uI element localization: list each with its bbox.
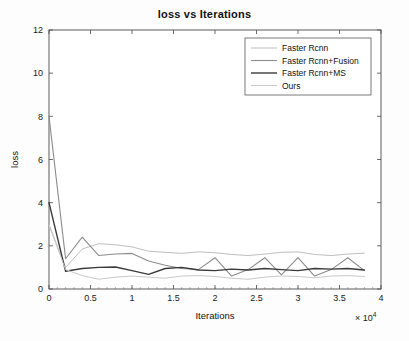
y-tick-label: 6 — [38, 155, 43, 165]
y-tick-label: 4 — [38, 198, 43, 208]
x-tick-label: 3 — [295, 293, 300, 303]
y-tick-label: 0 — [38, 284, 43, 294]
chart-legend[interactable]: Faster RcnnFaster Rcnn+FusionFaster Rcnn… — [245, 38, 371, 95]
x-tick-label: 3.5 — [333, 293, 346, 303]
x-tick-label: 1.5 — [167, 293, 180, 303]
figure-container: loss vs Iterations 00.511.522.533.540246… — [0, 0, 409, 341]
legend-label-2[interactable]: Faster Rcnn+MS — [282, 68, 346, 78]
x-axis-title: Iterations — [195, 310, 234, 321]
x-tick-label: 2 — [212, 293, 217, 303]
legend-label-1[interactable]: Faster Rcnn+Fusion — [282, 56, 359, 66]
y-axis-title: loss — [9, 151, 20, 168]
y-tick-label: 10 — [33, 68, 43, 78]
legend-label-3[interactable]: Ours — [282, 81, 300, 91]
x-tick-label: 0.5 — [84, 293, 97, 303]
y-tick-label: 12 — [33, 25, 43, 35]
loss-vs-iterations-chart: 00.511.522.533.54024681012Iterationsloss… — [0, 0, 409, 341]
x-tick-label: 4 — [378, 293, 383, 303]
x-tick-label: 2.5 — [250, 293, 263, 303]
x-axis-exponent-power: 4 — [373, 311, 377, 318]
y-tick-label: 2 — [38, 241, 43, 251]
x-tick-label: 0 — [46, 293, 51, 303]
x-axis-exponent: × 104 — [355, 311, 377, 323]
y-tick-label: 8 — [38, 112, 43, 122]
legend-label-0[interactable]: Faster Rcnn — [282, 43, 329, 53]
x-tick-label: 1 — [129, 293, 134, 303]
